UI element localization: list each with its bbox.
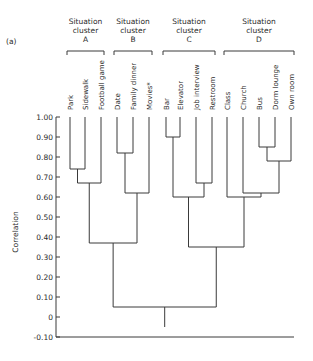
y-tick-label: 0.80 (36, 153, 53, 162)
leaf-label: Class (224, 91, 232, 110)
panel-label: (a) (6, 37, 17, 46)
cluster-title-line: Situation (116, 17, 150, 26)
cluster-title-line: B (130, 35, 135, 44)
y-axis-label: Correlation (11, 211, 20, 253)
cluster-title-line: Situation (242, 17, 276, 26)
y-tick-label: 0.70 (36, 173, 53, 182)
cluster-title-line: D (256, 35, 262, 44)
y-tick-label: 0.40 (36, 233, 53, 242)
leaf-label: Bus (256, 97, 264, 110)
cluster-header-a: SituationclusterA (67, 17, 104, 55)
leaf-label: Dorm lounge (272, 65, 280, 110)
dendrogram-chart: SituationclusterASituationclusterBSituat… (0, 0, 313, 361)
leaf-label: Date (114, 93, 122, 110)
leaf-label: Family dinner (130, 63, 138, 110)
cluster-title-line: cluster (120, 26, 146, 35)
y-tick-label: -0.10 (34, 333, 54, 342)
y-tick-label: 0.60 (36, 193, 53, 202)
cluster-title-line: Situation (69, 17, 103, 26)
leaf-label: Own room (288, 74, 296, 110)
y-tick-label: 0.90 (36, 133, 53, 142)
y-tick-label: 0.10 (36, 293, 53, 302)
y-tick-label: 1.00 (36, 113, 53, 122)
cluster-headers: SituationclusterASituationclusterBSituat… (67, 17, 294, 55)
cluster-title-line: A (83, 35, 89, 44)
leaf-label: Elevator (177, 81, 185, 110)
leaf-labels: ParkSidewalkFootball gameDateFamily dinn… (67, 60, 296, 111)
cluster-header-b: SituationclusterB (114, 17, 152, 55)
leaf-label: Bar (163, 98, 171, 110)
leaf-label: Park (67, 94, 75, 110)
cluster-title-line: C (186, 35, 191, 44)
leaf-label: Sidewalk (82, 78, 90, 110)
leaf-label: Job interview (193, 64, 201, 111)
cluster-title-line: cluster (73, 26, 99, 35)
cluster-title-line: cluster (176, 26, 202, 35)
cluster-header-d: SituationclusterD (224, 17, 294, 55)
cluster-title-line: Situation (172, 17, 206, 26)
y-tick-label: 0.20 (36, 273, 53, 282)
y-tick-label: 0.30 (36, 253, 53, 262)
dendrogram-tree (70, 117, 291, 327)
leaf-label: Restroom (209, 76, 217, 110)
leaf-label: Movies* (146, 82, 154, 110)
leaf-label: Football game (98, 60, 106, 110)
cluster-title-line: cluster (246, 26, 272, 35)
leaf-label: Church (240, 85, 248, 110)
y-tick-label: 0 (48, 313, 53, 322)
y-tick-label: 0.50 (36, 213, 53, 222)
cluster-header-c: SituationclusterC (163, 17, 215, 55)
